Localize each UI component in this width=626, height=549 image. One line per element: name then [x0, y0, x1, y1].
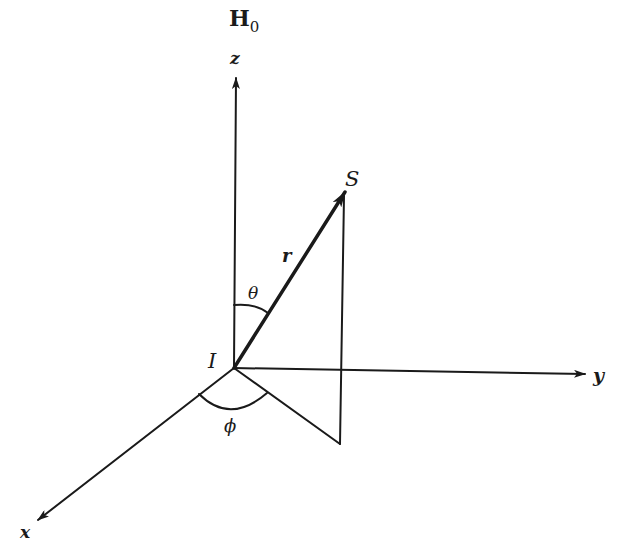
spherical-coordinate-diagram: H0 z y x S r θ I ϕ — [0, 0, 626, 549]
z-axis-label: z — [229, 48, 240, 68]
point-label: S — [345, 167, 359, 191]
x-axis — [38, 368, 234, 520]
z-axis — [234, 78, 236, 368]
plane-projection-line — [234, 368, 340, 444]
y-axis-label: y — [592, 364, 606, 386]
origin-label: I — [207, 349, 217, 373]
theta-label: θ — [248, 283, 258, 303]
x-axis-label: x — [19, 522, 31, 542]
vertical-projection-line — [340, 196, 344, 444]
theta-arc — [234, 305, 268, 313]
y-axis — [234, 368, 585, 374]
phi-label: ϕ — [224, 415, 236, 436]
field-label: H0 — [229, 5, 259, 36]
phi-arc — [199, 393, 267, 409]
radius-label: r — [282, 245, 293, 266]
radius-vector — [234, 192, 345, 368]
